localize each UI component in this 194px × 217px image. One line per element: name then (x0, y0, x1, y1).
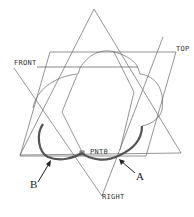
arrow-b-head (46, 160, 51, 167)
right-label: RIGHT (102, 193, 125, 201)
inner-hexagon (62, 75, 82, 152)
top-datum-plane (20, 52, 176, 156)
front-label: FRONT (14, 59, 37, 67)
right-datum-triangle-up (20, 9, 181, 155)
label-a: A (136, 170, 144, 182)
top-label: TOP (176, 45, 190, 53)
label-b: B (30, 178, 37, 190)
pnt0-label: PNT0 (90, 148, 108, 156)
